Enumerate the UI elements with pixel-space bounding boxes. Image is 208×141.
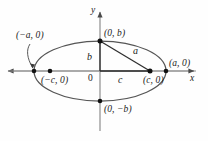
label-bottom-vertex: (0, −b) (104, 105, 132, 115)
point-bottom-vertex (98, 99, 103, 104)
segment-a (100, 41, 150, 71)
point-left-vertex (32, 69, 37, 74)
label-top-vertex: (0, b) (104, 29, 125, 39)
ellipse-diagram-canvas (0, 0, 208, 141)
ellipse-figure: y x 0 (−a, 0) (a, 0) (0, b) (0, −b) (−c,… (0, 0, 208, 141)
label-left-vertex: (−a, 0) (16, 31, 44, 41)
point-top-vertex (98, 39, 103, 44)
label-semi-major-a: a (133, 46, 138, 56)
label-left-focus: (−c, 0) (41, 76, 68, 86)
label-right-focus: (c, 0) (143, 76, 164, 86)
point-right-vertex (164, 69, 169, 74)
label-right-vertex: (a, 0) (169, 59, 190, 69)
point-left-focus (48, 69, 53, 74)
point-right-focus (148, 69, 153, 74)
origin-label: 0 (88, 74, 93, 84)
y-axis-label: y (91, 6, 95, 16)
label-focal-c: c (118, 75, 123, 85)
x-axis-label: x (190, 74, 194, 84)
label-semi-minor-b: b (87, 52, 92, 62)
